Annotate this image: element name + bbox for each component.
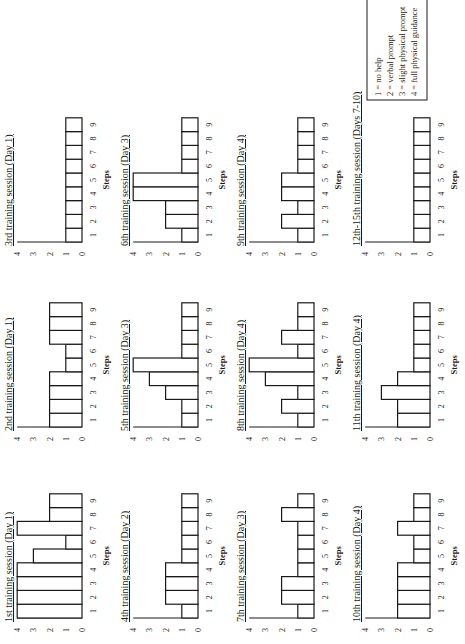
bar xyxy=(33,549,82,563)
step-tick-label: 1 xyxy=(437,233,446,237)
bar xyxy=(414,330,430,344)
step-tick-label: 6 xyxy=(321,349,330,353)
bar xyxy=(249,358,314,372)
chart-title: 5th training session (Day 3) xyxy=(119,320,131,431)
step-tick-label: 5 xyxy=(89,178,98,182)
bar xyxy=(166,577,198,591)
value-tick-label: 4 xyxy=(245,437,254,441)
bar xyxy=(149,372,198,386)
step-tick-label: 1 xyxy=(321,609,330,613)
step-tick-label: 3 xyxy=(437,582,446,586)
step-tick-label: 8 xyxy=(89,513,98,517)
training-sessions-figure: 01234123456789Steps1st training session … xyxy=(0,0,465,644)
bar xyxy=(298,549,314,563)
bar xyxy=(182,399,198,413)
step-tick-label: 9 xyxy=(321,308,330,312)
legend-item-4: 4 = full physical guidance xyxy=(409,7,419,96)
legend-item-3: 3 = slight physical prompt xyxy=(397,6,407,96)
step-tick-label: 9 xyxy=(205,308,214,312)
step-tick-label: 2 xyxy=(205,404,214,408)
value-tick-label: 0 xyxy=(194,437,203,441)
bar xyxy=(66,145,82,159)
value-tick-label: 1 xyxy=(294,252,303,256)
step-tick-label: 4 xyxy=(437,192,446,196)
step-tick-label: 1 xyxy=(89,609,98,613)
bar xyxy=(182,521,198,535)
step-tick-label: 9 xyxy=(89,308,98,312)
bar xyxy=(133,358,198,372)
step-tick-label: 7 xyxy=(205,335,214,339)
bar xyxy=(17,563,82,577)
steps-axis-label: Steps xyxy=(101,170,111,190)
bar xyxy=(166,214,198,228)
value-tick-label: 0 xyxy=(310,252,319,256)
value-tick-label: 0 xyxy=(310,437,319,441)
chart-panel: 01234123456789Steps1st training session … xyxy=(3,494,111,632)
value-tick-label: 2 xyxy=(278,628,287,632)
step-tick-label: 2 xyxy=(89,219,98,223)
bar xyxy=(182,145,198,159)
value-tick-label: 0 xyxy=(426,437,435,441)
bar xyxy=(298,563,314,577)
bar xyxy=(398,563,430,577)
value-tick-label: 1 xyxy=(62,252,71,256)
steps-axis-label: Steps xyxy=(217,170,227,190)
step-tick-label: 8 xyxy=(205,137,214,141)
value-tick-label: 0 xyxy=(426,252,435,256)
step-tick-label: 3 xyxy=(89,206,98,210)
value-tick-label: 1 xyxy=(178,628,187,632)
step-tick-label: 2 xyxy=(89,595,98,599)
bar xyxy=(414,508,430,522)
steps-axis-label: Steps xyxy=(101,546,111,566)
bar xyxy=(182,228,198,242)
bar xyxy=(66,201,82,215)
step-tick-label: 7 xyxy=(89,150,98,154)
step-tick-label: 3 xyxy=(205,582,214,586)
step-tick-label: 7 xyxy=(205,526,214,530)
bar xyxy=(298,228,314,242)
bar xyxy=(17,604,82,618)
chart-panel: 01234123456789Steps12th-15th training se… xyxy=(351,92,459,256)
value-tick-label: 3 xyxy=(29,628,38,632)
bar xyxy=(66,132,82,146)
step-tick-label: 5 xyxy=(437,363,446,367)
chart-title: 9th training session (Day 4) xyxy=(235,135,247,246)
bar xyxy=(265,372,314,386)
value-tick-label: 4 xyxy=(13,252,22,256)
chart-panel: 01234123456789Steps10th training session… xyxy=(351,494,459,632)
bar xyxy=(182,118,198,132)
step-tick-label: 6 xyxy=(89,349,98,353)
bar xyxy=(298,118,314,132)
bar xyxy=(17,577,82,591)
bar xyxy=(66,159,82,173)
step-tick-label: 1 xyxy=(321,233,330,237)
step-tick-label: 7 xyxy=(89,335,98,339)
bar xyxy=(414,494,430,508)
bar xyxy=(298,159,314,173)
step-tick-label: 4 xyxy=(437,377,446,381)
step-tick-label: 2 xyxy=(437,404,446,408)
step-tick-label: 4 xyxy=(89,568,98,572)
step-tick-label: 5 xyxy=(89,554,98,558)
step-tick-label: 2 xyxy=(437,219,446,223)
value-tick-label: 3 xyxy=(261,628,270,632)
value-tick-label: 4 xyxy=(129,252,138,256)
step-tick-label: 7 xyxy=(205,150,214,154)
step-tick-label: 6 xyxy=(205,164,214,168)
steps-axis-label: Steps xyxy=(449,355,459,375)
bar xyxy=(182,330,198,344)
value-tick-label: 4 xyxy=(129,437,138,441)
value-tick-label: 1 xyxy=(62,628,71,632)
step-tick-label: 7 xyxy=(321,150,330,154)
step-tick-label: 4 xyxy=(321,377,330,381)
legend: 1 = no help 2 = verbal prompt 3 = slight… xyxy=(367,0,427,100)
bar xyxy=(66,118,82,132)
value-tick-label: 1 xyxy=(294,628,303,632)
chart-title: 3rd training session (Day 1) xyxy=(3,134,15,246)
step-tick-label: 8 xyxy=(321,137,330,141)
bar xyxy=(166,201,198,215)
value-tick-label: 3 xyxy=(145,628,154,632)
step-tick-label: 3 xyxy=(321,206,330,210)
step-tick-label: 4 xyxy=(89,192,98,196)
chart-panel: 01234123456789Steps2nd training session … xyxy=(3,303,111,441)
